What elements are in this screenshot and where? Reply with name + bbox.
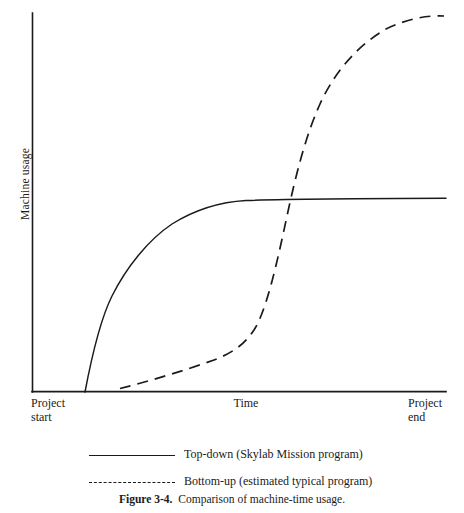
x-axis-start-label: Project start [31, 396, 65, 424]
chart-legend: Top-down (Skylab Mission program) Bottom… [0, 444, 464, 498]
figure-caption-number: Figure 3-4. [119, 493, 172, 505]
legend-swatch-solid-line [89, 455, 175, 456]
chart-canvas [0, 0, 464, 430]
legend-label-top-down: Top-down (Skylab Mission program) [184, 447, 363, 462]
x-axis-label: Time [186, 396, 306, 411]
legend-item-top-down: Top-down (Skylab Mission program) [0, 444, 464, 471]
figure-caption: Figure 3-4. Comparison of machine-time u… [0, 493, 464, 505]
x-axis-end-label-line2: end [408, 410, 442, 424]
y-axis-label: Machine usage [19, 124, 31, 244]
series-line-bottom-up [120, 16, 444, 389]
legend-label-bottom-up: Bottom-up (estimated typical program) [184, 474, 372, 489]
x-axis-start-label-line2: start [31, 410, 65, 424]
chart-plot-area: Machine usage Time Project start Project… [0, 0, 464, 430]
x-axis-end-label-line1: Project [408, 396, 442, 410]
figure-machine-time-usage: Machine usage Time Project start Project… [0, 0, 464, 513]
x-axis-start-label-line1: Project [31, 396, 65, 410]
legend-swatch-dashed-line [89, 482, 175, 483]
series-line-top-down [85, 198, 446, 392]
x-axis-end-label: Project end [408, 396, 442, 424]
figure-caption-text: Comparison of machine-time usage. [178, 493, 345, 505]
